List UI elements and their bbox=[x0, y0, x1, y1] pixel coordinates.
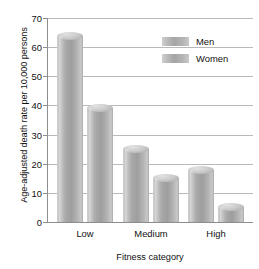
legend-item-women: Women bbox=[162, 51, 248, 66]
bar-high-women bbox=[218, 207, 244, 222]
chart-legend: Men Women bbox=[162, 34, 248, 68]
y-axis-tick-label: 60 bbox=[32, 42, 42, 53]
bar-medium-women bbox=[153, 178, 179, 222]
y-axis-tick-label: 20 bbox=[32, 158, 42, 169]
y-axis-tick-label: 70 bbox=[32, 13, 42, 24]
y-axis-tick-mark bbox=[43, 222, 47, 223]
x-axis-line bbox=[47, 222, 253, 223]
bar-chart: Age-adjusted death rate per 10,000 perso… bbox=[0, 0, 259, 269]
bar-highlight bbox=[125, 149, 130, 222]
y-axis-tick-label: 10 bbox=[32, 187, 42, 198]
legend-label-men: Men bbox=[196, 36, 214, 47]
bar-low-men bbox=[57, 36, 83, 223]
y-axis-line bbox=[47, 18, 48, 222]
bar-medium-men bbox=[123, 149, 149, 222]
x-axis-tick-label-medium: Medium bbox=[134, 228, 167, 239]
y-axis-tick-label: 40 bbox=[32, 100, 42, 111]
legend-swatch-men bbox=[162, 37, 189, 46]
bar-high-men bbox=[188, 170, 214, 222]
legend-item-men: Men bbox=[162, 34, 248, 49]
bar-highlight bbox=[59, 36, 64, 223]
bar-highlight bbox=[220, 207, 225, 222]
bar-low-women bbox=[87, 108, 113, 222]
bar-highlight bbox=[89, 108, 94, 222]
gridline bbox=[47, 18, 253, 19]
x-axis-tick-label-high: High bbox=[206, 228, 225, 239]
x-axis-title: Fitness category bbox=[45, 252, 255, 262]
bar-highlight bbox=[155, 178, 160, 222]
legend-label-women: Women bbox=[196, 53, 228, 64]
y-axis-tick-label: 0 bbox=[37, 217, 42, 228]
x-axis-tick-label-low: Low bbox=[76, 228, 93, 239]
y-axis-title: Age-adjusted death rate per 10,000 perso… bbox=[19, 15, 29, 215]
bar-highlight bbox=[190, 170, 195, 222]
y-axis-tick-label: 50 bbox=[32, 71, 42, 82]
legend-swatch-women bbox=[162, 54, 189, 63]
y-axis-tick-label: 30 bbox=[32, 129, 42, 140]
